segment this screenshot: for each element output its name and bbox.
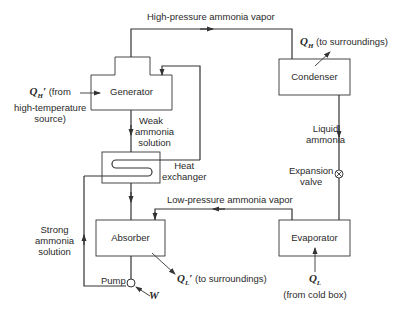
strong-solution-line1: Strong — [35, 224, 74, 235]
ql-prime-label: QL′ (to surroundings) — [177, 273, 267, 289]
liquid-ammonia-label: Liquid ammonia — [306, 123, 345, 145]
weak-solution-line1: Weak — [135, 115, 174, 126]
high-pressure-vapor-label: High-pressure ammonia vapor — [147, 11, 275, 22]
work-label: W — [149, 290, 159, 301]
condenser-label: Condenser — [279, 71, 350, 82]
qh-prime-line3: source) — [14, 113, 86, 124]
expansion-valve-label-line1: Expansion — [289, 165, 333, 176]
weak-solution-label: Weak ammonia solution — [135, 115, 174, 148]
expansion-valve-label-line2: valve — [289, 176, 333, 187]
qh-text: (to surroundings) — [316, 36, 388, 47]
qh-prime-symbol: QH′ — [30, 85, 47, 97]
liquid-ammonia-line1: Liquid — [306, 123, 345, 134]
qh-label: QH (to surroundings) — [300, 36, 388, 52]
liquid-ammonia-line2: ammonia — [306, 134, 345, 145]
ql-text: (from cold box) — [283, 289, 347, 300]
expansion-valve-symbol — [335, 170, 343, 178]
high-pressure-vapor-line — [131, 29, 292, 59]
work-arrow — [136, 287, 150, 296]
heat-exchanger-label-line1: Heat — [162, 160, 206, 171]
expansion-valve-label: Expansion valve — [289, 165, 333, 187]
strong-solution-label: Strong ammonia solution — [35, 224, 74, 257]
ql-prime-symbol: QL′ — [177, 272, 192, 284]
heat-exchanger-label: Heat exchanger — [162, 160, 206, 182]
low-pressure-vapor-label: Low-pressure ammonia vapor — [167, 194, 293, 205]
strong-solution-line3: solution — [35, 246, 74, 257]
strong-solution-line — [84, 176, 126, 286]
strong-solution-line2: ammonia — [35, 235, 74, 246]
absorber-label: Absorber — [96, 232, 165, 243]
qh-prime-label: QH′ (from high-temperature source) — [14, 86, 86, 124]
generator-box — [91, 57, 172, 110]
ql-symbol: QL — [283, 273, 347, 289]
heat-exchanger-label-line2: exchanger — [162, 171, 206, 182]
qh-symbol: QH — [300, 35, 313, 47]
pump-label: Pump — [101, 275, 126, 286]
evaporator-label: Evaporator — [279, 232, 350, 243]
low-pressure-vapor-line — [155, 209, 292, 220]
weak-solution-line2: ammonia — [135, 126, 174, 137]
ql-label: QL (from cold box) — [283, 273, 347, 300]
qh-prime-line2: high-temperature — [14, 102, 86, 113]
generator-label: Generator — [91, 86, 172, 97]
weak-solution-line3: solution — [135, 137, 174, 148]
pump-symbol — [127, 279, 135, 287]
qh-prime-line1: QH′ (from — [14, 86, 86, 102]
ql-prime-text: (to surroundings) — [195, 273, 267, 284]
